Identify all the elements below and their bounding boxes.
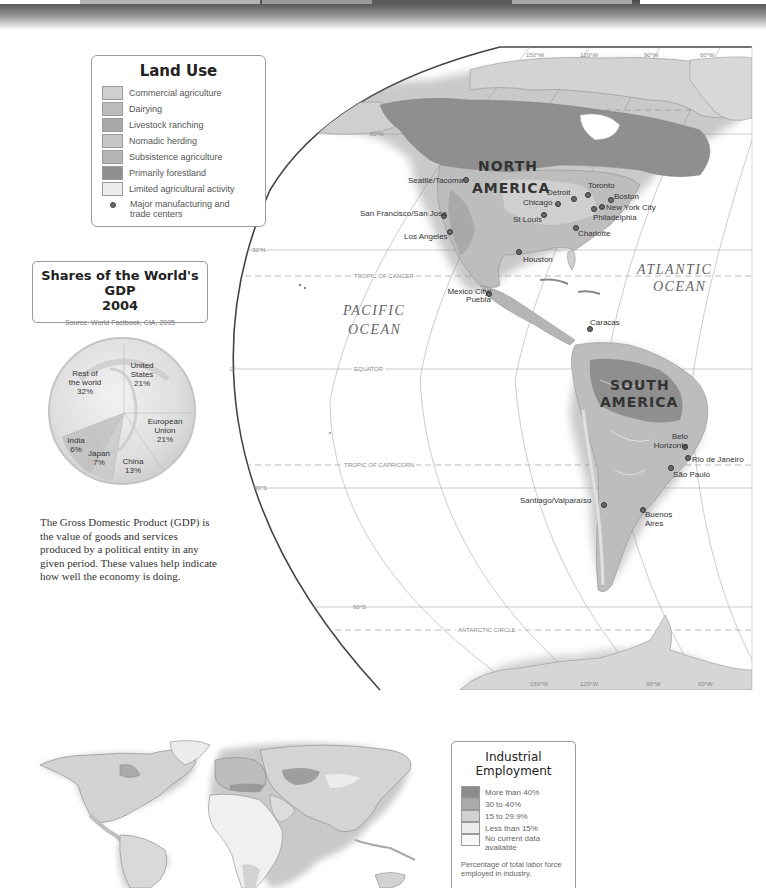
- swatch-15-to-29: [461, 810, 480, 822]
- gdp-pie-coin: Rest ofthe world32% UnitedStates21% Euro…: [48, 337, 196, 485]
- city-label-detroit: Detroit: [547, 188, 571, 197]
- longitude-label-150w-top: 150°W: [526, 52, 544, 58]
- industrial-title-line2: Employment: [452, 764, 575, 778]
- latitude-label-60s: 60°S: [353, 604, 366, 610]
- city-label-houston: Houston: [523, 255, 553, 264]
- legend-label: Commercial agriculture: [129, 88, 222, 98]
- industrial-title-line1: Industrial: [452, 750, 575, 764]
- ocean-label-atlantic: ATLANTIC: [637, 262, 712, 278]
- city-label-rio: Rio de Janeiro: [692, 455, 744, 464]
- pie-label-european-union: EuropeanUnion21%: [140, 417, 190, 444]
- legend-item-primarily-forestland: Primarily forestland: [92, 165, 265, 181]
- swatch-no-data: [461, 834, 480, 846]
- pie-label-united-states: UnitedStates21%: [122, 361, 162, 388]
- legend-item-30-to-40: 30 to 40%: [452, 798, 575, 810]
- city-label-san-francisco: San Francisco/San Jose: [360, 209, 447, 218]
- city-label-toronto: Toronto: [588, 181, 615, 190]
- swatch-commercial-agriculture: [102, 86, 123, 100]
- latitude-label-30s: 30°S: [254, 485, 267, 491]
- legend-label: More than 40%: [485, 788, 539, 797]
- swatch-limited-agricultural-activity: [102, 182, 123, 196]
- legend-label: Livestock ranching: [129, 120, 204, 130]
- city-marker-houston: [516, 249, 522, 255]
- legend-label: Limited agricultural activity: [129, 184, 235, 194]
- legend-item-livestock-ranching: Livestock ranching: [92, 117, 265, 133]
- city-label-seattle: Seattle/Tacoma: [408, 176, 463, 185]
- swatch-dairying: [102, 102, 123, 116]
- city-label-boston: Boston: [614, 192, 639, 201]
- legend-label: Major manufacturing and trade centers: [130, 199, 250, 219]
- continent-label-america-north: AMERICA: [472, 181, 550, 196]
- gdp-description: The Gross Domestic Product (GDP) is the …: [40, 516, 220, 584]
- city-marker-detroit: [571, 196, 577, 202]
- swatch-livestock-ranching: [102, 118, 123, 132]
- swatch-more-than-40: [461, 786, 480, 798]
- latitude-label-60n: 60°N: [370, 131, 383, 137]
- city-label-los-angeles: Los Angeles: [404, 232, 448, 241]
- city-marker-los-angeles: [447, 229, 453, 235]
- ocean-label-atlantic-ocean: OCEAN: [653, 279, 706, 295]
- legend-label: 15 to 29.9%: [485, 812, 528, 821]
- city-label-sao-paulo: São Paulo: [673, 470, 710, 479]
- industrial-legend-title: Industrial Employment: [452, 750, 575, 778]
- swatch-30-to-40: [461, 798, 480, 810]
- legend-item-nomadic-herding: Nomadic herding: [92, 133, 265, 149]
- legend-label: Primarily forestland: [129, 168, 206, 178]
- swatch-nomadic-herding: [102, 134, 123, 148]
- legend-label: Dairying: [129, 104, 162, 114]
- longitude-label-60w-top: 60°W: [700, 52, 715, 58]
- city-label-santiago: Santiago/Valparaíso: [520, 496, 591, 505]
- gdp-source: Source: World Factbook, CIA, 2005: [33, 319, 207, 326]
- legend-item-manufacturing-centers: Major manufacturing and trade centers: [92, 197, 265, 223]
- world-industrial-employment-map: [20, 730, 420, 888]
- longitude-label-120w-top: 120°W: [580, 52, 598, 58]
- land-use-legend-title: Land Use: [92, 62, 265, 80]
- legend-item-dairying: Dairying: [92, 101, 265, 117]
- city-label-chicago: Chicago: [523, 198, 552, 207]
- city-label-buenos-aires: Buenos Aires: [645, 510, 675, 528]
- city-label-st-louis: St Louis: [513, 215, 542, 224]
- city-marker-chicago: [555, 201, 561, 207]
- antarctic-circle-label: ANTARCTIC CIRCLE: [456, 627, 518, 633]
- continent-label-america-south: AMERICA: [600, 395, 678, 410]
- legend-label: Nomadic herding: [129, 136, 197, 146]
- swatch-subsistence-agriculture: [102, 150, 123, 164]
- legend-label: 30 to 40%: [485, 800, 521, 809]
- city-marker-new-york: [599, 204, 605, 210]
- city-marker-rio: [685, 455, 691, 461]
- legend-item-no-data: No current data available: [452, 834, 575, 856]
- longitude-label-60w-bottom: 60°W: [698, 681, 713, 687]
- legend-item-more-than-40: More than 40%: [452, 786, 575, 798]
- continent-label-north: NORTH: [478, 159, 538, 174]
- city-label-new-york: New York City: [606, 203, 656, 212]
- pie-label-india: India6%: [62, 436, 90, 454]
- longitude-label-90w-top: 90°W: [644, 52, 659, 58]
- latitude-label-30n: 30°N: [252, 247, 265, 253]
- city-label-belo-horizonte: Belo Horizonte: [650, 432, 688, 450]
- longitude-label-150w-bottom: 150°W: [530, 681, 548, 687]
- industrial-employment-legend: Industrial Employment More than 40% 30 t…: [451, 741, 576, 888]
- latitude-label-0: 0°: [230, 366, 236, 372]
- city-marker-seattle: [463, 177, 469, 183]
- city-marker-santiago: [601, 502, 607, 508]
- gdp-year: 2004: [33, 298, 207, 313]
- legend-item-subsistence-agriculture: Subsistence agriculture: [92, 149, 265, 165]
- swatch-primarily-forestland: [102, 166, 123, 180]
- tropic-of-capricorn-label: TROPIC OF CAPRICORN: [342, 462, 416, 468]
- legend-label: Subsistence agriculture: [129, 152, 223, 162]
- tropic-of-cancer-label: TROPIC OF CANCER: [352, 273, 416, 279]
- swatch-less-than-15: [461, 822, 480, 834]
- gdp-chart-title-box: Shares of the World's GDP 2004 Source: W…: [32, 261, 208, 323]
- longitude-label-90w-bottom: 90°W: [646, 681, 661, 687]
- ocean-label-pacific-ocean: OCEAN: [348, 322, 401, 338]
- city-label-mexico-city: Mexico City/ Puebla: [446, 288, 491, 304]
- city-marker-toronto: [585, 192, 591, 198]
- legend-item-15-to-29: 15 to 29.9%: [452, 810, 575, 822]
- land-use-legend: Land Use Commercial agriculture Dairying…: [91, 55, 266, 227]
- city-label-charlotte: Charlotte: [578, 229, 610, 238]
- longitude-label-120w-bottom: 120°W: [580, 681, 598, 687]
- legend-item-limited-agricultural-activity: Limited agricultural activity: [92, 181, 265, 197]
- pie-label-china: China13%: [118, 457, 148, 475]
- ocean-label-pacific: PACIFIC: [343, 303, 405, 319]
- legend-item-commercial-agriculture: Commercial agriculture: [92, 85, 265, 101]
